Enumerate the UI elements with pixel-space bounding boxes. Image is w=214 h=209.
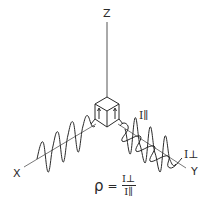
depolarization-ratio-formula: ρ = I⊥ I∥ — [94, 174, 136, 197]
x-wave — [37, 115, 95, 172]
fraction: I⊥ I∥ — [122, 174, 136, 197]
rho-symbol: ρ — [94, 177, 104, 195]
sample-cube — [91, 97, 123, 127]
i-parallel-label: I∥ — [139, 110, 148, 121]
i-perpendicular-label: I⊥ — [184, 149, 199, 160]
denominator: I∥ — [124, 187, 133, 197]
numerator: I⊥ — [122, 174, 135, 184]
z-axis-label: Z — [103, 8, 111, 19]
x-axis-label: X — [13, 168, 21, 179]
y-axis-label: Y — [191, 166, 198, 177]
equals-sign: = — [108, 179, 118, 193]
